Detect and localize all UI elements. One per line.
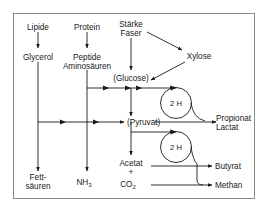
diagram-canvas: Lipide Protein Stärke Faser Glycerol Pep… bbox=[0, 0, 268, 214]
arrowhead-glucose-row-right bbox=[136, 86, 142, 91]
arrow-xylose-to-glucose bbox=[151, 62, 185, 80]
label-faser: Faser bbox=[121, 29, 142, 38]
label-glycerol: Glycerol bbox=[23, 53, 53, 62]
arrowhead-pyruvat-row-left bbox=[60, 120, 66, 125]
arrowhead-pyruvat-row-mid bbox=[93, 120, 99, 125]
label-saeuren: säuren bbox=[25, 182, 50, 191]
label-nh3: NH3 bbox=[76, 178, 92, 188]
label-redox-2: 2 H bbox=[170, 143, 182, 152]
arrowhead-redox-2 bbox=[170, 129, 177, 134]
arrowhead-redox-1 bbox=[170, 85, 177, 90]
label-pyruvat: (Pyruvat) bbox=[127, 118, 160, 127]
label-lactat: Lactat bbox=[216, 123, 239, 132]
label-redox-1: 2 H bbox=[170, 99, 182, 108]
label-co2: CO2 bbox=[120, 180, 136, 190]
arrowhead-glucose-row-mid bbox=[125, 86, 131, 91]
label-lipide: Lipide bbox=[27, 23, 49, 32]
label-acetat: Acetat bbox=[119, 159, 143, 168]
label-plus: + bbox=[129, 168, 134, 177]
label-protein: Protein bbox=[74, 23, 100, 32]
label-butyrat: Butyrat bbox=[215, 162, 242, 171]
label-xylose: Xylose bbox=[187, 52, 212, 61]
label-methan: Methan bbox=[215, 181, 243, 190]
line-methan-elbow bbox=[197, 180, 203, 185]
loop2-exit bbox=[191, 147, 197, 164]
label-staerke: Stärke bbox=[119, 20, 143, 29]
label-peptide: Peptide bbox=[73, 53, 101, 62]
label-fett: Fett- bbox=[30, 173, 47, 182]
fermentation-diagram-figure: Lipide Protein Stärke Faser Glycerol Pep… bbox=[0, 0, 268, 214]
label-glucose: (Glucose) bbox=[113, 74, 149, 83]
arrow-staerke-to-xylose bbox=[147, 32, 182, 50]
label-propionat: Propionat bbox=[216, 114, 252, 123]
loop1-exit bbox=[191, 103, 205, 121]
label-aminosaeuren: Aminosäuren bbox=[63, 62, 112, 71]
arrowhead-glucose-row-left bbox=[103, 86, 109, 91]
